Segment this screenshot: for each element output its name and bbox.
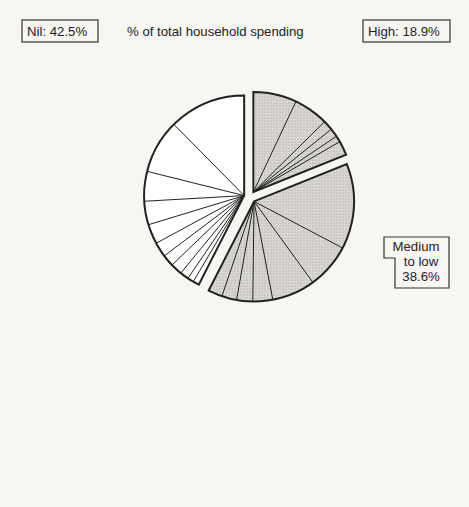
medium-group-label-line2: to low [404,254,439,269]
pie-wedges [144,92,354,301]
medium-group-label-line1: Medium [393,239,440,254]
nil-group-label: Nil: 42.5% [27,24,87,39]
high-group-label: High: 18.9% [368,24,440,39]
medium-group-label-line3: 38.6% [402,269,440,284]
pie-chart: Nil: 42.5% % of total household spending… [0,0,469,507]
chart-title: % of total household spending [127,24,304,39]
